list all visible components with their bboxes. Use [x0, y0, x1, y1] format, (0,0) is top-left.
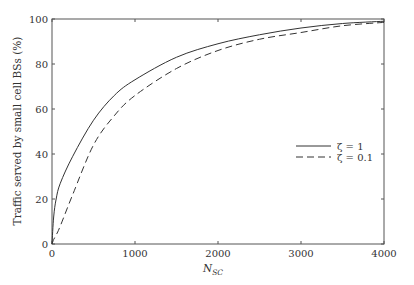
legend-label-zeta-0-1: ζ = 0.1 — [337, 152, 373, 163]
series-line-zeta-1 — [52, 21, 384, 244]
x-tick-label: 3000 — [288, 248, 313, 259]
x-tick-label: 2000 — [205, 248, 230, 259]
x-tick-label: 0 — [49, 248, 55, 259]
y-axis-label: Traffic served by small cell BSs (%) — [11, 37, 23, 226]
x-axis-ticks: 01000200030004000 — [49, 19, 397, 259]
series-line-zeta-0-1 — [52, 22, 384, 244]
y-tick-label: 40 — [35, 149, 48, 160]
legend: ζ = 1 ζ = 0.1 — [296, 141, 373, 163]
series-layer — [52, 21, 384, 244]
x-tick-label: 4000 — [371, 248, 396, 259]
y-tick-label: 0 — [42, 239, 48, 250]
y-axis-ticks: 020406080100 — [29, 14, 384, 250]
y-tick-label: 100 — [29, 14, 48, 25]
x-axis-label: NSC — [202, 262, 223, 277]
y-tick-label: 60 — [35, 104, 48, 115]
y-tick-label: 80 — [35, 59, 48, 70]
x-axis-label-subscript: SC — [212, 268, 223, 277]
x-tick-label: 1000 — [122, 248, 147, 259]
line-chart: 020406080100 01000200030004000 Traffic s… — [0, 0, 414, 285]
y-tick-label: 20 — [35, 194, 48, 205]
legend-label-zeta-1: ζ = 1 — [337, 141, 364, 152]
